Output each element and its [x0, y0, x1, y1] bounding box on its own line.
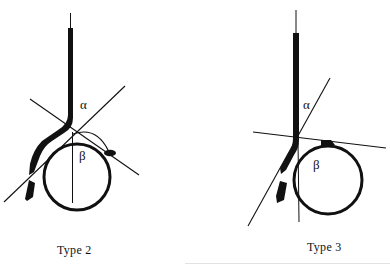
- caption-type-3: Type 3: [307, 240, 342, 255]
- panel-type-2: [4, 13, 139, 210]
- thick-shaft: [280, 33, 299, 174]
- alpha-angle-label-type-2: α: [80, 97, 87, 113]
- diagram-canvas: [0, 0, 390, 268]
- alpha-angle-label-type-3: α: [303, 97, 310, 113]
- thick-shaft: [29, 28, 73, 175]
- tip-blob: [25, 180, 35, 201]
- panel-type-3: [248, 10, 386, 226]
- beta-angle-label-type-2: β: [79, 148, 86, 164]
- caption-type-2: Type 2: [57, 243, 92, 258]
- loop-circle: [44, 144, 110, 210]
- tip-blob: [276, 181, 287, 203]
- loop-circle: [294, 146, 362, 214]
- arc-blob: [104, 150, 116, 157]
- vertical-axis: [298, 140, 299, 222]
- tangent-line-diagonal: [248, 78, 330, 226]
- tangent-line-1: [4, 86, 125, 202]
- bottom-edge-rule: [185, 263, 390, 264]
- beta-angle-label-type-3: β: [313, 157, 320, 173]
